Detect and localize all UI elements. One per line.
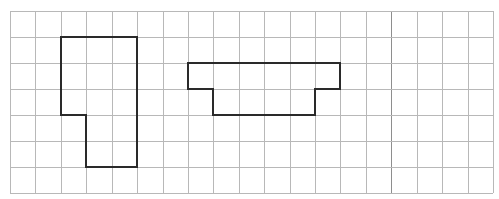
square-grid — [10, 11, 494, 194]
shape-left-l — [61, 37, 137, 167]
shapes-layer — [61, 37, 340, 167]
grid-diagram — [0, 0, 499, 199]
